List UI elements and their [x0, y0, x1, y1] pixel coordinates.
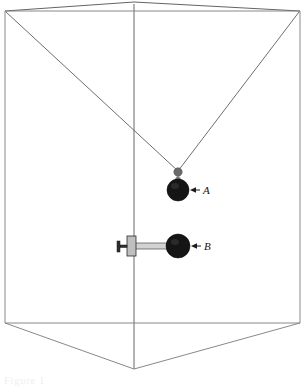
- rod-clamp: [127, 236, 136, 256]
- label-a-text: A: [202, 184, 210, 196]
- label-a-group: A: [190, 184, 210, 196]
- pendulum-assembly-a: [167, 168, 189, 201]
- ball-a-highlight: [171, 183, 179, 189]
- string-knot: [174, 168, 182, 176]
- string-right: [178, 12, 299, 171]
- label-b-text: B: [204, 240, 211, 252]
- rod-assembly-b: [117, 234, 190, 258]
- mounted-ball-b: [166, 234, 190, 258]
- roof-edge-left: [5, 2, 134, 11]
- string-left: [6, 12, 178, 171]
- clamp-screw-shaft: [120, 245, 127, 248]
- pendulum-ball-a: [167, 179, 189, 201]
- clamp-screw-head: [117, 241, 120, 252]
- label-a-arrowhead: [190, 187, 196, 193]
- figure-caption: Figure 1: [4, 374, 45, 386]
- figure-container: A B Figure 1: [0, 0, 307, 391]
- ball-b-highlight: [171, 239, 179, 245]
- suspension-strings: [6, 12, 299, 171]
- floor-edge-left: [5, 323, 134, 369]
- label-b-arrowhead: [191, 243, 197, 249]
- label-b-group: B: [191, 240, 211, 252]
- floor-edge-right: [134, 323, 300, 369]
- wireframe-enclosure: [5, 2, 300, 369]
- apparatus-diagram: A B: [0, 0, 307, 391]
- roof-edge-right: [134, 2, 300, 11]
